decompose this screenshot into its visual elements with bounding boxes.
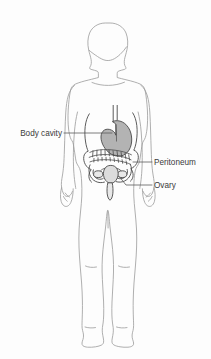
label-body-cavity: Body cavity	[20, 129, 63, 138]
ovary-right	[118, 171, 127, 178]
vagina	[107, 183, 113, 200]
uterus	[103, 165, 118, 183]
label-peritoneum: Peritoneum	[154, 158, 196, 167]
ovary-left	[94, 171, 103, 178]
anatomy-diagram: Body cavity Peritoneum Ovary	[0, 0, 211, 359]
label-ovary: Ovary	[154, 181, 177, 190]
